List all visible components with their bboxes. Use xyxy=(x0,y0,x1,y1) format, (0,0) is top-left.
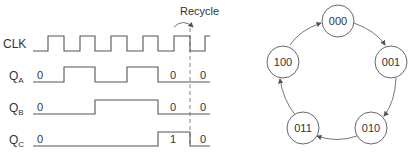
qc-value-start: 0 xyxy=(37,133,43,145)
transition-011-100 xyxy=(280,79,296,116)
transition-010-011 xyxy=(317,136,357,140)
qa-value-start: 0 xyxy=(37,69,43,81)
timing-diagram: Recycle CLK QA 0 0 0 QB 0 0 0 QC 0 1 0 xyxy=(3,5,219,149)
qc-value-before-recycle: 1 xyxy=(170,133,176,145)
recycle-arrow-icon xyxy=(174,23,193,28)
svg-text:011: 011 xyxy=(294,122,312,134)
qa-waveform xyxy=(33,67,210,82)
qb-value-before-recycle: 0 xyxy=(170,101,176,113)
svg-text:000: 000 xyxy=(329,15,347,27)
clk-waveform xyxy=(33,36,210,51)
transition-001-010 xyxy=(384,78,396,116)
qa-value-after-recycle: 0 xyxy=(200,69,206,81)
qa-value-before-recycle: 0 xyxy=(170,69,176,81)
qc-waveform xyxy=(33,132,210,146)
qb-value-after-recycle: 0 xyxy=(200,101,206,113)
qb-value-start: 0 xyxy=(37,101,43,113)
state-100: 100 xyxy=(267,46,299,78)
state-diagram: 000 001 010 011 100 xyxy=(267,5,407,144)
svg-text:010: 010 xyxy=(362,122,380,134)
qb-waveform xyxy=(33,100,210,114)
state-010: 010 xyxy=(355,112,387,144)
transition-100-000 xyxy=(290,23,321,45)
signal-label-clk: CLK xyxy=(3,37,26,51)
svg-text:001: 001 xyxy=(382,56,400,68)
recycle-label: Recycle xyxy=(180,5,219,17)
signal-label-qc: QC xyxy=(9,133,24,149)
qc-value-after-recycle: 0 xyxy=(200,133,206,145)
state-001: 001 xyxy=(375,46,407,78)
state-000: 000 xyxy=(322,5,354,37)
counter-diagram: Recycle CLK QA 0 0 0 QB 0 0 0 QC 0 1 0 xyxy=(0,0,408,163)
signal-label-qa: QA xyxy=(9,69,24,85)
transition-000-001 xyxy=(354,23,385,45)
svg-text:100: 100 xyxy=(274,56,292,68)
signal-label-qb: QB xyxy=(9,101,24,117)
state-011: 011 xyxy=(287,112,319,144)
